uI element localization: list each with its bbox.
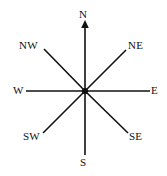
north-arrowhead-icon <box>81 20 89 28</box>
label-west: W <box>13 85 24 96</box>
label-southwest: SW <box>23 131 40 142</box>
ray-northwest <box>44 49 85 91</box>
label-east: E <box>151 85 158 96</box>
label-southeast: SE <box>129 131 142 142</box>
ray-northeast <box>85 50 126 91</box>
label-northwest: NW <box>19 40 38 51</box>
ray-southeast <box>85 91 128 133</box>
ray-southwest <box>43 91 85 133</box>
compass-center-point <box>82 88 88 94</box>
compass-rose-figure: N NE E SE S SW W NW <box>0 0 167 176</box>
label-northeast: NE <box>128 40 143 51</box>
compass-rose-diagram <box>0 0 167 176</box>
label-north: N <box>79 9 87 20</box>
label-south: S <box>80 157 86 168</box>
